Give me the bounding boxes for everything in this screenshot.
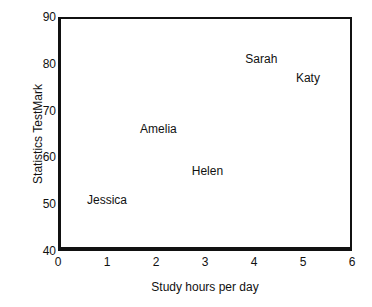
y-axis-title: Statistics TestMark	[31, 34, 45, 234]
plot-frame	[58, 17, 352, 251]
data-point-label: Helen	[192, 165, 223, 177]
x-tick-label: 1	[92, 256, 122, 268]
data-point-label: Jessica	[87, 194, 127, 206]
x-tick-label: 2	[141, 256, 171, 268]
data-point-label: Amelia	[140, 123, 177, 135]
chart-screenshot: 405060708090 0123456 JessicaAmeliaHelenS…	[0, 0, 372, 307]
y-tick-label: 90	[16, 11, 56, 23]
x-tick-label: 3	[190, 256, 220, 268]
x-tick-label: 0	[43, 256, 73, 268]
x-tick-label: 6	[337, 256, 367, 268]
data-point-label: Katy	[296, 72, 320, 84]
x-axis-title: Study hours per day	[58, 280, 352, 294]
data-point-label: Sarah	[245, 53, 277, 65]
x-tick-label: 4	[239, 256, 269, 268]
x-tick-label: 5	[288, 256, 318, 268]
